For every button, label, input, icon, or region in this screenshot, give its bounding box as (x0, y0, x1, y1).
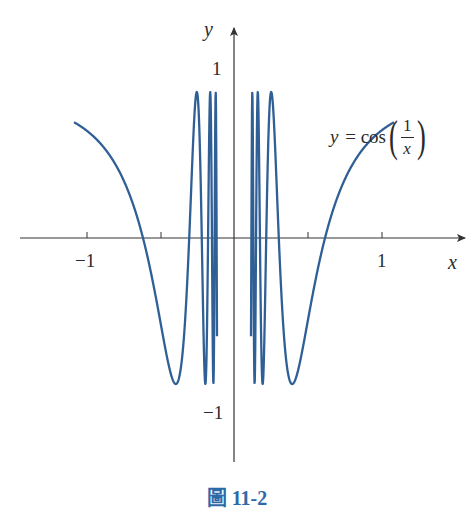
fraction-bar (401, 137, 414, 138)
fraction-numerator: 1 (403, 117, 412, 135)
paren-close: ) (417, 115, 426, 159)
curve-annotation: y = cos ( 1 x ) (330, 115, 428, 159)
y-tick-label-1: 1 (212, 58, 222, 80)
plot-area (0, 0, 474, 513)
x-axis-label: x (448, 251, 457, 274)
fraction: 1 x (401, 117, 414, 158)
x-tick-label-1: 1 (377, 250, 387, 272)
fraction-denominator: x (403, 140, 411, 158)
x-tick-label-neg1: −1 (75, 250, 95, 272)
formula-y: y (330, 126, 338, 148)
paren-open: ( (389, 115, 398, 159)
formula-eq-cos: = cos (340, 126, 386, 148)
y-axis-label: y (204, 18, 213, 41)
y-tick-label-neg1: −1 (203, 402, 223, 424)
figure-caption: 圖 11-2 (0, 482, 474, 511)
